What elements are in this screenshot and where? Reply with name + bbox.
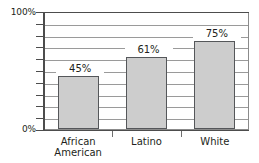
x-axis-category-label: African American: [44, 136, 112, 158]
y-axis-tick: [36, 24, 44, 25]
y-axis-tick: [36, 83, 44, 84]
y-axis-tick: [36, 47, 44, 48]
bar-value-label: 61%: [125, 45, 173, 55]
x-axis-category-label: White: [181, 136, 249, 147]
y-axis-tick: [36, 71, 44, 72]
gridline: [44, 25, 248, 26]
y-axis-tick: [36, 130, 44, 131]
bar: [58, 76, 99, 129]
plot-top-border: [44, 12, 249, 13]
y-axis-tick: [36, 36, 44, 37]
y-axis-tick: [36, 118, 44, 119]
bar: [126, 57, 167, 129]
y-axis-tick: [36, 12, 44, 13]
y-axis-tick: [36, 95, 44, 96]
x-axis-line: [44, 130, 249, 131]
y-axis-label-0: 0%: [0, 125, 36, 134]
y-axis-tick: [36, 106, 44, 107]
bar: [194, 41, 235, 130]
bar-value-label: 45%: [56, 64, 104, 74]
y-axis-tick: [36, 59, 44, 60]
x-axis-category-label: Latino: [112, 136, 180, 147]
y-axis-label-100: 100%: [0, 8, 36, 17]
bar-value-label: 75%: [193, 29, 241, 39]
bar-chart: 100% 0% 45%61%75% African AmericanLatino…: [0, 0, 259, 163]
